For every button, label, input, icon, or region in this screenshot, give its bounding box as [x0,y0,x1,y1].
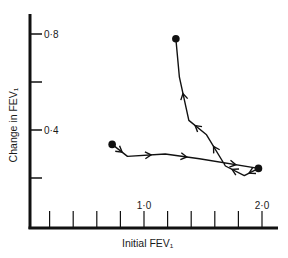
data-series [108,35,262,176]
axes [29,14,279,229]
x-ticks: 1·02·0 [50,200,270,228]
x-tick-label: 1·0 [137,200,152,211]
endpoint-marker [108,141,116,149]
y-ticks: 0·40·8 [30,29,59,179]
fev-trajectory-chart: 0·40·8 1·02·0 Initial FEV₁ Change in FEV… [0,0,288,258]
endpoint-marker [172,35,180,43]
x-axis-label: Initial FEV₁ [122,237,174,249]
endpoint-marker [255,165,263,173]
x-tick-label: 2·0 [255,200,270,211]
y-axis-label: Change in FEV₁ [7,87,19,162]
y-tick-label: 0·4 [44,125,59,136]
y-tick-label: 0·8 [44,29,59,40]
